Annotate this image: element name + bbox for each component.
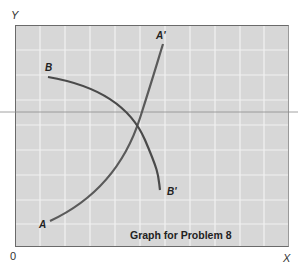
point-label-a-prime: A': [156, 30, 166, 41]
grid-lines: [16, 26, 288, 246]
graph-caption: Graph for Problem 8: [130, 229, 232, 241]
curve-aa-prime: [50, 44, 163, 221]
point-label-a: A: [39, 219, 46, 230]
point-label-b: B: [45, 62, 52, 73]
point-label-b-prime: B': [167, 186, 177, 197]
